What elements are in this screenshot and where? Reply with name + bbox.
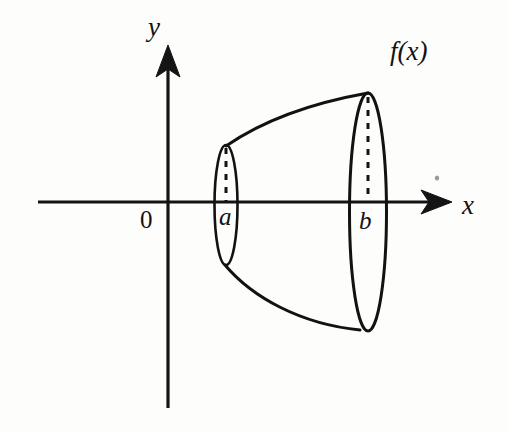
function-label: f(x) bbox=[390, 38, 427, 65]
y-axis-label: y bbox=[148, 14, 160, 41]
diagram-svg bbox=[0, 0, 508, 432]
origin-label: 0 bbox=[140, 207, 153, 232]
x-axis-label: x bbox=[462, 192, 474, 219]
upper-bound-label-b: b bbox=[359, 208, 372, 233]
lower-bound-label-a: a bbox=[219, 204, 232, 229]
lower-profile-curve bbox=[225, 265, 360, 330]
upper-profile-curve bbox=[226, 93, 368, 146]
scan-artifact-speck bbox=[435, 175, 439, 180]
figure-canvas: y x f(x) 0 a b bbox=[0, 0, 508, 432]
axes-group bbox=[38, 45, 452, 408]
